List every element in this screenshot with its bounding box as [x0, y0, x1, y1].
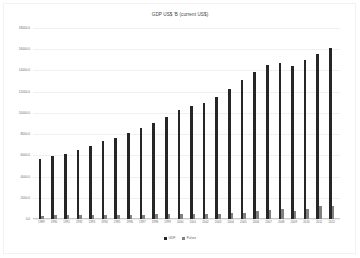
x-axis-tick-label: 1990 — [48, 220, 61, 224]
bar-group — [161, 28, 174, 219]
bar-gdp[interactable] — [279, 63, 282, 219]
bar-gdp[interactable] — [253, 72, 256, 219]
bar-secondary[interactable] — [319, 206, 322, 219]
bar-gdp[interactable] — [165, 117, 168, 220]
bar-groups — [33, 28, 340, 219]
chart-title: GDP US$ 'B (current US$) — [0, 12, 360, 17]
y-axis-tick-label: 6000.0 — [21, 153, 30, 157]
chart-page: GDP US$ 'B (current US$) 18000.016000.01… — [0, 0, 360, 258]
legend-swatch-icon — [182, 237, 185, 240]
bar-gdp[interactable] — [241, 80, 244, 219]
bar-group — [275, 28, 288, 219]
bar-group — [149, 28, 162, 219]
bar-group — [136, 28, 149, 219]
bar-group — [86, 28, 99, 219]
x-axis-tick-label: 2007 — [262, 220, 275, 224]
x-axis-tick-label: 1991 — [60, 220, 73, 224]
bar-group — [313, 28, 326, 219]
legend-item[interactable]: GDP — [164, 236, 175, 240]
y-axis-tick-label: 0.0 — [26, 217, 30, 221]
bar-secondary[interactable] — [269, 210, 272, 219]
bar-secondary[interactable] — [243, 213, 246, 219]
legend-item[interactable]: Pulses — [182, 236, 196, 240]
bar-secondary[interactable] — [306, 209, 309, 219]
bar-group — [288, 28, 301, 219]
bar-gdp[interactable] — [228, 89, 231, 219]
legend-swatch-icon — [164, 237, 167, 240]
bar-group — [262, 28, 275, 219]
bar-gdp[interactable] — [215, 97, 218, 219]
bar-secondary[interactable] — [205, 214, 208, 219]
bar-secondary[interactable] — [231, 213, 234, 219]
bar-secondary[interactable] — [41, 216, 44, 220]
bar-secondary[interactable] — [218, 214, 221, 219]
bar-gdp[interactable] — [140, 128, 143, 219]
bar-secondary[interactable] — [256, 211, 259, 219]
bar-secondary[interactable] — [155, 214, 158, 219]
bar-group — [35, 28, 48, 219]
bar-secondary[interactable] — [168, 214, 171, 219]
y-axis-tick-label: 18000.0 — [19, 26, 30, 30]
x-axis-tick-label: 2008 — [275, 220, 288, 224]
bar-gdp[interactable] — [51, 156, 54, 219]
bar-group — [250, 28, 263, 219]
bar-gdp[interactable] — [291, 66, 294, 219]
bar-gdp[interactable] — [329, 48, 332, 220]
bar-gdp[interactable] — [89, 146, 92, 219]
x-axis-tick-label: 2005 — [237, 220, 250, 224]
x-axis-tick-label: 2001 — [187, 220, 200, 224]
bar-group — [300, 28, 313, 219]
bar-gdp[interactable] — [114, 138, 117, 219]
bar-gdp[interactable] — [127, 133, 130, 219]
bar-gdp[interactable] — [39, 159, 42, 219]
bar-secondary[interactable] — [180, 214, 183, 219]
x-axis-tick-label: 2012 — [325, 220, 338, 224]
bar-group — [111, 28, 124, 219]
bar-secondary[interactable] — [92, 215, 95, 219]
bar-group — [237, 28, 250, 219]
bar-secondary[interactable] — [332, 206, 335, 219]
bar-secondary[interactable] — [54, 215, 57, 219]
bar-group — [212, 28, 225, 219]
bar-gdp[interactable] — [304, 60, 307, 219]
bar-secondary[interactable] — [79, 215, 82, 219]
x-axis-tick-label: 1995 — [111, 220, 124, 224]
bar-group — [199, 28, 212, 219]
bar-secondary[interactable] — [117, 215, 120, 219]
y-axis-tick-label: 14000.0 — [19, 68, 30, 72]
bar-secondary[interactable] — [142, 215, 145, 219]
bar-gdp[interactable] — [64, 154, 67, 220]
bar-group — [123, 28, 136, 219]
legend-label: Pulses — [187, 236, 196, 240]
x-axis-labels: 1989199019911992199319941995199619971998… — [33, 220, 340, 224]
bar-secondary[interactable] — [130, 215, 133, 219]
bar-secondary[interactable] — [281, 209, 284, 219]
x-axis-tick-label: 1989 — [35, 220, 48, 224]
chart-legend: GDPPulses — [0, 236, 360, 240]
bar-gdp[interactable] — [102, 141, 105, 219]
bar-secondary[interactable] — [193, 214, 196, 219]
bar-gdp[interactable] — [152, 123, 155, 219]
bar-secondary[interactable] — [104, 215, 107, 219]
bar-gdp[interactable] — [77, 150, 80, 219]
bar-gdp[interactable] — [316, 54, 319, 219]
bar-gdp[interactable] — [178, 110, 181, 219]
bar-secondary[interactable] — [67, 215, 70, 219]
x-axis-tick-label: 2011 — [313, 220, 326, 224]
bar-secondary[interactable] — [294, 211, 297, 219]
y-axis-tick-label: 8000.0 — [21, 132, 30, 136]
plot-area: 18000.016000.014000.012000.010000.08000.… — [33, 28, 340, 219]
y-axis-tick-label: 4000.0 — [21, 175, 30, 179]
x-axis-tick-label: 2006 — [250, 220, 263, 224]
bar-gdp[interactable] — [266, 65, 269, 219]
bar-gdp[interactable] — [190, 106, 193, 219]
x-axis-tick-label: 1999 — [161, 220, 174, 224]
legend-label: GDP — [168, 236, 175, 240]
x-axis-tick-label: 2010 — [300, 220, 313, 224]
bar-gdp[interactable] — [203, 103, 206, 219]
y-axis-tick-label: 12000.0 — [19, 90, 30, 94]
x-axis-tick-label: 2002 — [199, 220, 212, 224]
bar-group — [98, 28, 111, 219]
bar-group — [48, 28, 61, 219]
x-axis-tick-label: 2003 — [212, 220, 225, 224]
